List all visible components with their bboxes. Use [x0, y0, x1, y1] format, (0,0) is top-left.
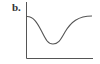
- curve: [27, 16, 93, 44]
- graph: [0, 0, 100, 64]
